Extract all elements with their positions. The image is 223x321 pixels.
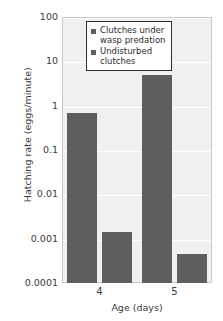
legend-label: Clutches under wasp predation	[100, 26, 166, 45]
y-axis-tick-label: 0.0001	[0, 278, 58, 288]
x-axis-tick-label: 5	[155, 287, 195, 297]
bar	[177, 254, 207, 283]
legend-swatch-icon	[91, 50, 96, 55]
y-axis-tick-label: 100	[0, 12, 58, 22]
bar	[142, 75, 172, 283]
y-axis-tick-label: 0.001	[0, 234, 58, 244]
legend-swatch-icon	[91, 29, 96, 34]
y-axis-tick-label: 0.01	[0, 189, 58, 199]
bar	[102, 232, 132, 283]
y-axis-tick-label: 1	[0, 101, 58, 111]
bar	[67, 113, 97, 283]
y-axis-tick-label: 10	[0, 56, 58, 66]
x-axis-title: Age (days)	[62, 303, 212, 313]
gridline	[63, 107, 211, 108]
x-axis-tick-label: 4	[80, 287, 120, 297]
chart-legend: Clutches under wasp predationUndisturbed…	[86, 21, 172, 71]
y-axis-tick-label: 0.1	[0, 145, 58, 155]
legend-label: Undisturbed clutches	[100, 47, 152, 66]
legend-entry: Undisturbed clutches	[91, 47, 166, 66]
bar-chart-figure: Hatching rate (eggs/minute) 1001010.10.0…	[0, 0, 223, 321]
gridline	[63, 18, 211, 19]
legend-entry: Clutches under wasp predation	[91, 26, 166, 45]
